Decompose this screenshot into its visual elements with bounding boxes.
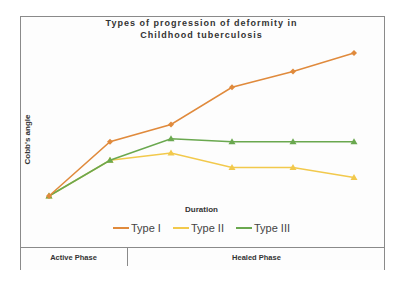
healed-phase-cell: Healed Phase (128, 248, 385, 266)
phase-table: Active Phase Healed Phase (20, 247, 385, 270)
legend: Type I Type II Type III (0, 222, 403, 234)
series-line-type-iii (49, 139, 354, 196)
series-line-type-i (49, 53, 354, 196)
data-point-marker (168, 150, 175, 156)
active-phase-cell: Active Phase (20, 248, 128, 266)
legend-item-type-3: Type III (236, 222, 290, 234)
legend-line-icon (173, 227, 189, 229)
legend-line-icon (113, 227, 129, 229)
legend-item-type-1: Type I (113, 222, 161, 234)
data-point-marker (290, 69, 296, 75)
legend-line-icon (236, 227, 252, 229)
series-line-type-ii (49, 153, 354, 196)
legend-label: Type I (131, 222, 161, 234)
legend-item-type-2: Type II (173, 222, 224, 234)
legend-label: Type II (191, 222, 224, 234)
data-point-marker (351, 50, 357, 56)
x-axis-label: Duration (0, 205, 403, 214)
legend-label: Type III (254, 222, 290, 234)
plot-area (0, 0, 403, 281)
